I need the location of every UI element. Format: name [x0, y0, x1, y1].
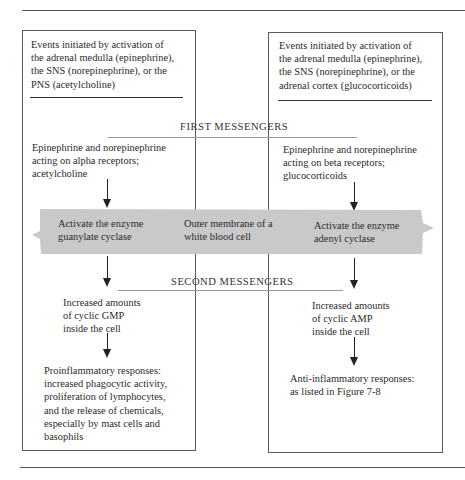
- first-messengers-heading: FIRST MESSENGERS: [180, 121, 288, 132]
- bottom-rule: [20, 467, 465, 468]
- top-rule: [22, 10, 465, 11]
- right-arrow-to-second-messenger: [350, 258, 359, 290]
- left-arrow-to-second-messenger: [103, 256, 112, 288]
- left-response-text: Proinflammatory responses: increased pha…: [44, 364, 167, 443]
- first-messengers-underline: [108, 137, 357, 138]
- left-second-messenger-text: Increased amounts of cyclic GMP inside t…: [63, 296, 141, 336]
- right-enzyme-text: Activate the enzyme adenyl cyclase: [314, 219, 399, 245]
- left-header-text: Events initiated by activation of the ad…: [31, 38, 174, 91]
- right-arrow-to-response: [350, 337, 359, 367]
- right-response-text: Anti-inflammatory responses: as listed i…: [290, 372, 414, 398]
- right-header-divider: [278, 100, 432, 101]
- membrane-label: Outer membrane of a white blood cell: [184, 217, 273, 243]
- left-header-divider: [30, 97, 183, 98]
- right-first-messenger-text: Epinephrine and norepinephrine acting on…: [283, 143, 417, 183]
- second-messengers-heading: SECOND MESSENGERS: [171, 276, 293, 287]
- left-enzyme-text: Activate the enzyme guanylate cyclase: [58, 217, 143, 243]
- left-first-messenger-text: Epinephrine and norepinephrine acting on…: [32, 141, 166, 181]
- right-header-text: Events initiated by activation of the ad…: [279, 39, 422, 92]
- right-second-messenger-text: Increased amounts of cyclic AMP inside t…: [312, 299, 390, 339]
- second-messengers-underline: [118, 290, 343, 291]
- left-arrow-to-response: [103, 333, 112, 359]
